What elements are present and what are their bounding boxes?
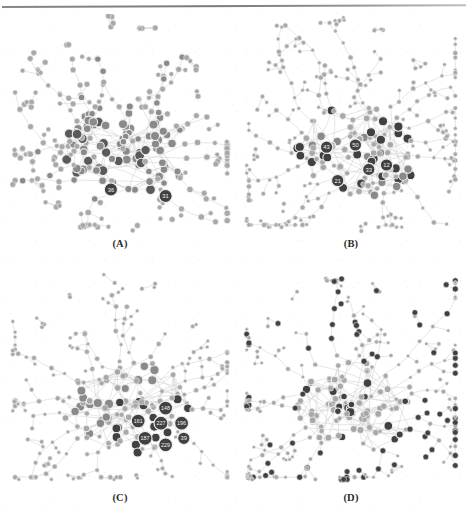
graph-node [394, 115, 399, 120]
graph-node [268, 178, 272, 182]
graph-node [377, 389, 383, 395]
graph-node [375, 186, 380, 191]
graph-node [17, 478, 21, 482]
graph-node [96, 450, 100, 454]
graph-node [316, 434, 322, 440]
graph-node [83, 125, 91, 133]
graph-nodes [244, 16, 457, 233]
graph-node [225, 371, 229, 375]
graph-node [169, 72, 174, 77]
graph-node [449, 85, 453, 89]
graph-node [293, 136, 297, 140]
graph-node [219, 408, 223, 412]
graph-node [97, 99, 102, 104]
graph-node [71, 163, 76, 168]
graph-node [112, 424, 121, 433]
graph-node [255, 349, 259, 353]
graph-node [252, 158, 256, 162]
graph-node [16, 402, 20, 406]
graph-node [352, 65, 356, 69]
graph-node [222, 414, 226, 418]
graph-node [186, 362, 190, 366]
panel-a: 3631 [6, 14, 234, 236]
graph-node [200, 365, 204, 369]
graph-node [403, 180, 407, 184]
graph-node [247, 336, 251, 340]
graph-node [171, 366, 175, 370]
graph-node [247, 192, 251, 196]
graph-node [376, 225, 380, 229]
graph-node [352, 95, 356, 99]
graph-node [170, 372, 175, 377]
graph-node [58, 166, 64, 172]
graph-node [40, 140, 46, 146]
graph-node [31, 50, 37, 56]
graph-node [120, 373, 126, 379]
graph-node [213, 141, 218, 146]
graph-node [267, 140, 272, 145]
graph-node [138, 26, 143, 31]
graph-node [266, 324, 270, 328]
graph-node [415, 99, 419, 103]
graph-node [339, 284, 342, 287]
graph-node [443, 157, 447, 161]
graph-node [384, 422, 393, 431]
graph-node [396, 431, 403, 438]
graph-node [133, 378, 139, 384]
graph-node [286, 451, 290, 455]
graph-node [131, 360, 136, 365]
graph-node [369, 351, 375, 357]
graph-node [317, 61, 321, 65]
graph-node [346, 300, 349, 303]
graph-node [308, 182, 312, 186]
graph-node [83, 425, 90, 432]
graph-node [418, 339, 422, 343]
graph-node [334, 22, 338, 26]
graph-node [52, 373, 56, 377]
graph-node [247, 128, 251, 132]
graph-node [369, 78, 373, 82]
graph-node [155, 94, 161, 100]
graph-node [348, 55, 353, 60]
graph-node [146, 178, 154, 186]
graph-node [441, 130, 445, 134]
graph-node [152, 446, 156, 450]
graph-node [51, 440, 55, 444]
graph-node [79, 212, 84, 217]
graph-node [43, 200, 48, 205]
graph-node [150, 403, 154, 407]
graph-node [155, 109, 161, 115]
graph-node [133, 403, 138, 408]
graph-node [118, 475, 123, 480]
graph-node [183, 369, 187, 373]
graph-node [185, 121, 191, 127]
graph-node [295, 142, 304, 151]
graph-node [148, 354, 153, 359]
graph-node [176, 430, 180, 434]
graph-node [293, 216, 297, 220]
graph-node [374, 340, 378, 344]
graph-node [340, 374, 345, 379]
graph-node [11, 348, 15, 352]
graph-node [453, 143, 457, 147]
graph-node [397, 100, 401, 104]
graph-node [12, 148, 17, 153]
graph-node-label: 21 [334, 178, 340, 184]
graph-node [110, 20, 116, 26]
graph-node [35, 149, 41, 155]
graph-node [444, 311, 450, 317]
graph-node [255, 107, 259, 111]
caption-d: (D) [240, 492, 462, 503]
graph-node [245, 348, 248, 351]
graph-node [117, 359, 121, 363]
graph-node [62, 415, 69, 422]
graph-node [363, 410, 369, 416]
graph-node [431, 325, 435, 329]
graph-node [54, 144, 59, 149]
graph-node [202, 385, 206, 389]
graph-node [453, 51, 458, 56]
graph-node [378, 117, 387, 126]
graph-node [161, 180, 167, 186]
graph-node [225, 139, 230, 144]
graph-node [362, 417, 367, 422]
